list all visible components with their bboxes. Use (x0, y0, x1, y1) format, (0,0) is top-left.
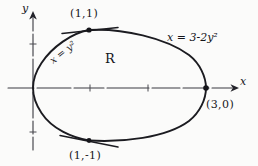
point-marker-3-0 (203, 85, 209, 91)
point-marker-1-1 (86, 27, 91, 32)
y-axis-label: y (22, 3, 28, 14)
figure-canvas: y x (1,1) (1,-1) (3,0) R x = 3-2y² x = y… (0, 0, 258, 166)
point-label-1-1: (1,1) (70, 8, 98, 19)
point-label-1-neg1: (1,-1) (69, 150, 101, 161)
x-axis-label: x (240, 76, 246, 87)
region-label-r: R (105, 52, 115, 65)
sketch-svg (0, 0, 258, 166)
point-label-3-0: (3,0) (206, 99, 234, 110)
point-marker-1-neg1 (87, 138, 92, 143)
curve-label-right: x = 3-2y² (167, 32, 218, 43)
